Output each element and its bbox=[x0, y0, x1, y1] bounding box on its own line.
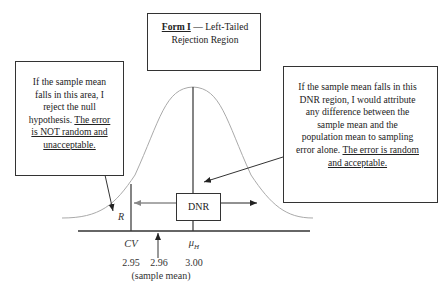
mu-value: 3.00 bbox=[185, 257, 203, 268]
sample-mean-caption: (sample mean) bbox=[131, 270, 190, 281]
right-callout-pointer bbox=[204, 157, 283, 182]
mu-label: μH bbox=[189, 237, 199, 251]
rejection-region-label: R bbox=[118, 211, 124, 222]
mu-subscript: H bbox=[194, 243, 199, 251]
cv-value: 2.95 bbox=[122, 257, 140, 268]
left-callout-box: If the sample mean falls in this area, I… bbox=[15, 61, 124, 176]
dnr-label: DNR bbox=[188, 201, 209, 212]
sample-mean-value: 2.96 bbox=[150, 257, 168, 268]
title-form-label: Form I bbox=[162, 21, 191, 32]
right-callout-emphasis: The error is random and acceptable. bbox=[328, 144, 419, 168]
cv-label: CV bbox=[124, 238, 137, 249]
dnr-box: DNR bbox=[176, 193, 221, 221]
title-box: Form I — Left-Tailed Rejection Region bbox=[147, 13, 261, 71]
right-callout-box: If the sample mean falls in this DNR reg… bbox=[283, 66, 438, 203]
